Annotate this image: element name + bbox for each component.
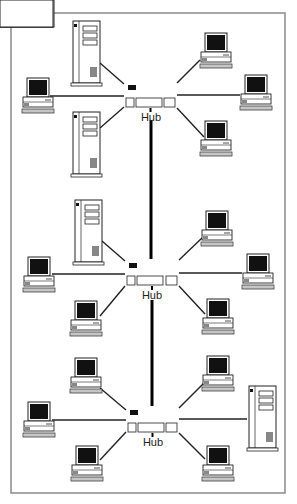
cable-w4 [177,108,204,137]
diagram-canvas [0,0,297,504]
server-tower-icon-s3 [73,200,104,265]
workstation-icon-w5 [23,257,55,292]
workstation-icon-w13 [202,356,234,391]
cable-w9 [179,286,205,314]
workstation-icon-w4 [200,121,232,156]
workstation-icon-w1 [22,78,54,113]
cable-w7 [179,238,202,260]
cable-s1 [100,63,124,84]
hub-label-3: Hub [143,436,163,448]
hub-2-icon [127,263,177,290]
hub-label-1: Hub [141,111,161,123]
cable-w13 [179,383,204,408]
cable-w6 [100,286,125,316]
server-tower-icon-s4 [247,386,278,451]
cable-w2 [177,60,200,83]
workstation-icon-w8 [242,254,274,289]
workstation-icon-w3 [240,75,272,110]
hub-3-icon [128,410,177,437]
workstation-icon-w2 [200,33,232,68]
workstation-icon-w7 [201,211,233,246]
network-diagram: Hub Hub Hub [0,0,297,504]
cable-w10 [100,388,126,410]
server-tower-icon-s1 [71,21,102,86]
server-tower-icon-s2 [71,112,102,177]
workstation-icon-w14 [202,446,234,481]
workstation-icon-w9 [202,299,234,334]
cable-s2 [100,107,124,128]
hub-label-2: Hub [142,289,162,301]
workstation-icon-w12 [71,446,103,481]
cable-w12 [100,432,126,460]
workstation-icon-w11 [23,402,55,437]
workstation-icon-w6 [70,301,102,336]
workstation-icon-w10 [70,358,102,393]
hub-1-icon [126,85,175,112]
cable-s3 [102,241,125,261]
cable-w14 [179,433,205,459]
